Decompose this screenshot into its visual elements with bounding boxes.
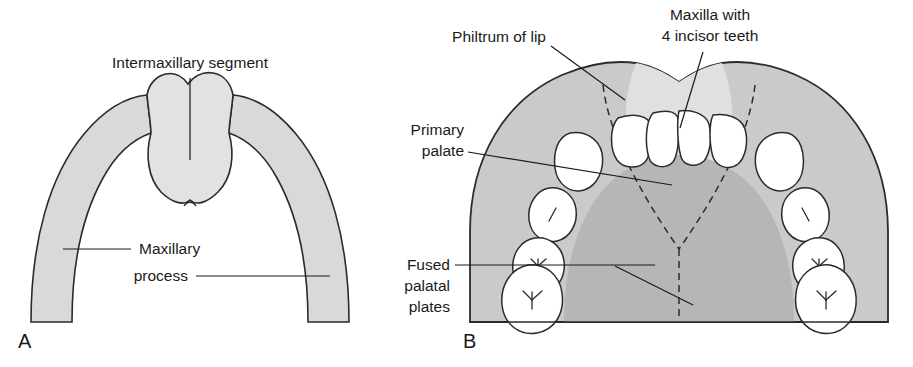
panel-letter-a: A bbox=[18, 330, 32, 352]
panel-a-right-maxillary-process bbox=[229, 95, 349, 322]
label-maxillary-process-line2: process bbox=[134, 267, 189, 284]
label-maxillary-process-line1: Maxillary bbox=[139, 240, 200, 257]
label-philtrum-of-lip: Philtrum of lip bbox=[452, 28, 546, 45]
tooth-incisor-left-central bbox=[646, 111, 679, 166]
figure-container: Intermaxillary segment Maxillary process… bbox=[0, 0, 913, 367]
tooth-incisor-right-lateral bbox=[710, 115, 747, 168]
panel-a-group: Intermaxillary segment Maxillary process… bbox=[18, 54, 349, 352]
tooth-canine-right bbox=[755, 132, 803, 190]
diagram-canvas: Intermaxillary segment Maxillary process… bbox=[0, 0, 913, 367]
label-fused-palatal-plates-line3: plates bbox=[409, 298, 451, 315]
panel-a-left-maxillary-process bbox=[31, 95, 151, 322]
label-maxilla-incisors-line1: Maxilla with bbox=[670, 6, 750, 23]
label-fused-palatal-plates-line2: palatal bbox=[404, 277, 450, 294]
label-primary-palate-line1: Primary bbox=[411, 121, 465, 138]
label-primary-palate-line2: palate bbox=[422, 142, 464, 159]
label-intermaxillary-segment: Intermaxillary segment bbox=[112, 54, 269, 71]
tooth-canine-left bbox=[555, 132, 603, 190]
label-maxilla-incisors-line2: 4 incisor teeth bbox=[662, 27, 759, 44]
panel-b-group: Philtrum of lip Maxilla with 4 incisor t… bbox=[404, 6, 888, 352]
panel-letter-b: B bbox=[463, 330, 476, 352]
label-fused-palatal-plates-line1: Fused bbox=[407, 256, 450, 273]
